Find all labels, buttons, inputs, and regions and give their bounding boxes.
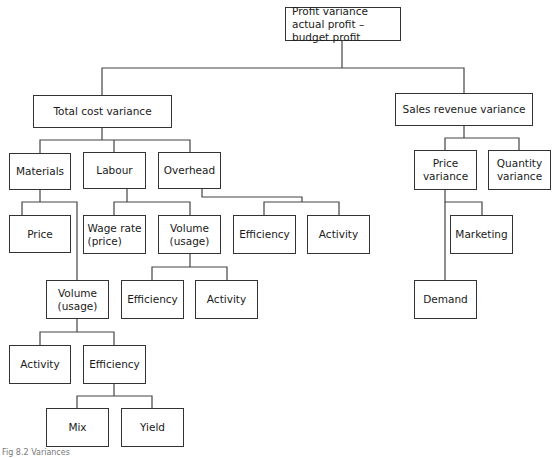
node-label: Yield [140,421,165,434]
node-label: Efficiency [239,228,290,241]
node-wage-rate: Wage rate (price) [83,215,146,254]
node-labour-activity: Activity [195,280,258,319]
figure-caption: Fig 8.2 Variances [2,448,70,457]
node-label: Efficiency [127,293,178,306]
node-materials-activity: Activity [9,345,71,384]
node-label: Sales revenue variance [403,103,526,116]
node-overhead-activity: Activity [307,215,370,254]
node-materials-price: Price [9,215,71,253]
node-materials-volume: Volume (usage) [46,280,109,319]
node-label: Wage rate (price) [88,222,142,248]
node-label: Price variance [423,157,468,183]
node-label: Activity [20,358,59,371]
node-sales-revenue-variance: Sales revenue variance [395,93,533,126]
node-marketing: Marketing [450,215,513,254]
node-label: Materials [16,165,64,178]
node-label: Price [27,228,53,241]
node-label: Overhead [164,164,215,177]
node-label: Demand [423,293,468,306]
node-label: Profit variance actual profit – budget p… [292,5,400,44]
node-label: Marketing [455,228,507,241]
node-overhead-efficiency: Efficiency [233,215,296,254]
node-materials-efficiency: Efficiency [83,345,146,384]
node-labour: Labour [83,152,146,189]
node-label: Mix [68,421,86,434]
node-label: Quantity variance [497,157,542,183]
node-label: Efficiency [89,358,140,371]
node-label: Activity [207,293,246,306]
node-labour-efficiency: Efficiency [121,280,184,319]
node-quantity-variance: Quantity variance [488,150,551,190]
node-price-variance: Price variance [414,150,477,190]
node-label: Volume (usage) [170,222,210,248]
node-label: Total cost variance [53,105,151,118]
node-materials: Materials [9,153,71,190]
node-label: Activity [319,228,358,241]
node-label: Volume (usage) [58,287,98,313]
node-yield: Yield [121,408,184,447]
node-labour-volume: Volume (usage) [158,215,221,254]
node-demand: Demand [414,280,477,319]
node-profit-variance: Profit variance actual profit – budget p… [285,7,401,41]
node-overhead: Overhead [158,152,221,189]
node-total-cost-variance: Total cost variance [33,95,172,128]
node-mix: Mix [46,408,109,447]
node-label: Labour [96,164,132,177]
